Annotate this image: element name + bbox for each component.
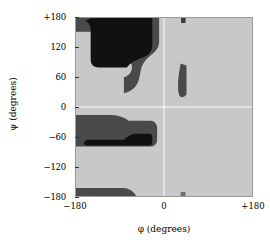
xtick-label-p180: +180 xyxy=(223,201,270,211)
ytick-mark-0 xyxy=(75,107,79,108)
ytick-mark-m60 xyxy=(75,137,79,138)
ytick-label-0: 0 xyxy=(26,102,66,112)
region-top-notch xyxy=(181,18,185,23)
ytick-mark-m180 xyxy=(75,197,79,198)
ytick-label-p180: +180 xyxy=(26,12,66,22)
x-axis-title: φ (degrees) xyxy=(75,224,253,234)
ytick-label-60: 60 xyxy=(26,72,66,82)
ytick-mark-60 xyxy=(75,77,79,78)
plot-area xyxy=(75,17,253,197)
region-bottom-notch xyxy=(181,192,186,196)
ytick-label-m60: −60 xyxy=(26,132,66,142)
ytick-mark-120 xyxy=(75,47,79,48)
xtick-label-m180: −180 xyxy=(45,201,105,211)
ytick-mark-180 xyxy=(75,17,79,18)
y-axis-title: ψ (degrees) xyxy=(8,39,18,169)
ytick-mark-m120 xyxy=(75,167,79,168)
contour-map xyxy=(76,18,252,196)
xtick-label-0: 0 xyxy=(134,201,194,211)
ramachandran-figure: +180 120 60 0 −60 −120 −180 −180 0 +180 … xyxy=(0,0,270,247)
region-allowed-bottom-band xyxy=(76,188,136,196)
ytick-label-120: 120 xyxy=(26,42,66,52)
ytick-label-m120: −120 xyxy=(26,162,66,172)
